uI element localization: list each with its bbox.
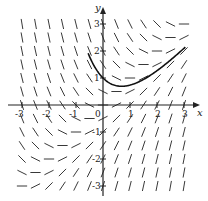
slope-segment bbox=[170, 181, 172, 191]
slope-segment bbox=[21, 59, 23, 69]
slope-segment bbox=[60, 182, 66, 191]
slope-segment bbox=[34, 87, 37, 97]
slope-segment bbox=[115, 181, 118, 191]
slope-segment bbox=[21, 46, 23, 56]
slope-segment bbox=[21, 32, 23, 42]
slope-segment bbox=[166, 49, 175, 54]
slope-segment bbox=[169, 127, 172, 137]
slope-segment bbox=[61, 60, 64, 70]
slope-segment bbox=[128, 19, 133, 28]
slope-segment bbox=[183, 181, 185, 191]
slope-segment bbox=[74, 181, 79, 190]
slope-segment bbox=[71, 143, 80, 148]
slope-segment bbox=[32, 142, 39, 149]
slope-field-diagram: x y -3-2-10123321-1-2-3 bbox=[0, 0, 208, 201]
y-tick-label: 3 bbox=[94, 19, 100, 29]
slope-segment bbox=[142, 127, 146, 137]
slope-segment bbox=[141, 114, 146, 123]
slope-segment bbox=[156, 167, 158, 177]
slope-segment bbox=[45, 182, 52, 189]
slope-segment bbox=[88, 19, 91, 29]
slope-segment bbox=[60, 87, 65, 96]
slope-segment bbox=[86, 88, 93, 95]
slope-segment bbox=[86, 142, 93, 149]
slope-segment bbox=[139, 49, 148, 54]
slope-segment bbox=[128, 141, 132, 151]
slope-segment bbox=[87, 74, 93, 83]
slope-segment bbox=[156, 141, 159, 151]
slope-segment bbox=[47, 73, 50, 83]
slope-segment bbox=[142, 181, 144, 191]
slope-segment bbox=[128, 127, 133, 136]
slope-segment bbox=[34, 46, 36, 56]
slope-segment bbox=[182, 87, 186, 97]
slope-segment bbox=[58, 157, 67, 162]
y-axis-label: y bbox=[94, 2, 101, 13]
slope-segment bbox=[21, 19, 23, 29]
slope-segment bbox=[183, 154, 185, 164]
slope-segment bbox=[114, 33, 119, 42]
slope-segment bbox=[125, 62, 134, 67]
slope-segment bbox=[156, 154, 158, 164]
slope-segment bbox=[45, 128, 52, 135]
slope-segment bbox=[153, 20, 160, 27]
slope-segment bbox=[141, 20, 147, 29]
y-tick-label: -1 bbox=[92, 127, 101, 137]
slope-segment bbox=[169, 141, 171, 151]
slope-segment bbox=[129, 181, 131, 191]
x-tick-label: -2 bbox=[42, 109, 51, 119]
slope-segment bbox=[88, 33, 91, 43]
slope-segment bbox=[58, 130, 67, 135]
slope-segment bbox=[33, 128, 39, 137]
y-axis-arrow-icon bbox=[100, 7, 106, 14]
slope-segment bbox=[48, 32, 50, 42]
slope-segment bbox=[88, 181, 92, 191]
slope-segment bbox=[129, 168, 132, 178]
x-axis-label: x bbox=[197, 107, 203, 118]
slope-segment bbox=[114, 47, 120, 56]
slope-segment bbox=[73, 87, 79, 96]
slope-segment bbox=[59, 115, 66, 122]
slope-segment bbox=[154, 87, 160, 96]
slope-segment bbox=[140, 88, 147, 95]
slope-segment bbox=[166, 22, 175, 27]
x-tick-label: 2 bbox=[155, 109, 161, 119]
slope-segment bbox=[74, 46, 77, 56]
slope-segment bbox=[183, 127, 185, 137]
slope-segment bbox=[19, 141, 25, 150]
slope-segment bbox=[169, 167, 171, 177]
y-tick-label: 2 bbox=[94, 46, 100, 56]
slope-segment bbox=[127, 33, 133, 42]
slope-segment bbox=[59, 169, 66, 176]
y-tick-label: -2 bbox=[92, 154, 101, 164]
x-tick-label: 3 bbox=[182, 109, 188, 119]
slope-segment bbox=[112, 76, 121, 81]
slope-segment bbox=[152, 62, 161, 67]
slope-segment bbox=[17, 170, 26, 175]
slope-segment bbox=[34, 60, 36, 70]
slope-segment bbox=[113, 115, 120, 122]
slope-segment bbox=[61, 19, 63, 29]
slope-segment bbox=[21, 73, 23, 83]
slope-segment bbox=[75, 19, 77, 29]
slope-segment bbox=[18, 155, 25, 162]
slope-segment bbox=[61, 73, 65, 83]
slope-segment bbox=[168, 87, 173, 96]
axes: x y -3-2-10123321-1-2-3 bbox=[8, 2, 203, 196]
slope-segment bbox=[142, 154, 145, 164]
slope-segment bbox=[153, 74, 160, 81]
x-tick-label: -3 bbox=[15, 109, 24, 119]
slope-segment bbox=[168, 74, 174, 83]
slope-segment bbox=[115, 154, 119, 164]
slope-segment bbox=[183, 140, 185, 150]
slope-segment bbox=[47, 87, 51, 97]
slope-segment bbox=[48, 19, 50, 29]
slope-segment bbox=[44, 170, 53, 175]
slope-segment bbox=[156, 181, 158, 191]
x-tick-label: 1 bbox=[128, 109, 134, 119]
slope-segment bbox=[152, 35, 161, 40]
slope-segment bbox=[140, 34, 147, 41]
slope-segment bbox=[142, 168, 144, 178]
slope-segment bbox=[72, 155, 79, 162]
y-tick-label: -3 bbox=[92, 181, 101, 191]
